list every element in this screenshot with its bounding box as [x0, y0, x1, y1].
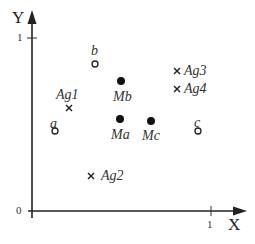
object-c-label: c: [194, 116, 200, 130]
agent-ag1-cross-icon: [66, 105, 72, 111]
x-axis-label: X: [228, 216, 240, 233]
diagram-canvas: [0, 0, 255, 244]
mean-ma-label: Ma: [111, 128, 130, 142]
agent-ag4-cross-icon: [174, 86, 180, 92]
object-b-label: b: [91, 44, 98, 58]
y-axis-label: Y: [12, 9, 24, 26]
object-a-label: a: [50, 117, 57, 131]
object-b-marker-icon: [92, 61, 98, 67]
mean-ma-marker-icon: [116, 115, 124, 123]
x-tick-label-1: 1: [207, 219, 213, 230]
mean-mc-marker-icon: [147, 117, 155, 125]
origin-label: 0: [16, 205, 22, 216]
agent-ag1-label: Ag1: [56, 88, 79, 102]
mean-mb-marker-icon: [117, 77, 125, 85]
agent-ag4-label: Ag4: [184, 82, 207, 96]
agent-ag3-label: Ag3: [184, 64, 207, 78]
agent-ag2-cross-icon: [88, 173, 94, 179]
mean-mb-label: Mb: [113, 90, 132, 104]
mean-mc-label: Mc: [142, 129, 160, 143]
agent-ag3-cross-icon: [174, 68, 180, 74]
y-tick-label-1: 1: [17, 32, 23, 43]
agent-ag2-label: Ag2: [101, 169, 124, 183]
y-axis-arrow-icon: [28, 10, 37, 24]
